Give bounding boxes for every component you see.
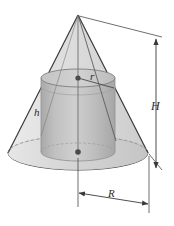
cone-cylinder-figure: r h H R [0,0,174,226]
label-cone-radius: R [107,187,115,199]
label-cylinder-radius: r [90,70,95,82]
label-cone-height: H [150,99,161,113]
figure-canvas: r h H R [0,0,174,226]
cone-height-lower-leader [149,154,162,170]
label-cylinder-height: h [34,106,40,118]
cone-base-center-dot [75,149,81,155]
cone-height-upper-leader [79,16,162,37]
